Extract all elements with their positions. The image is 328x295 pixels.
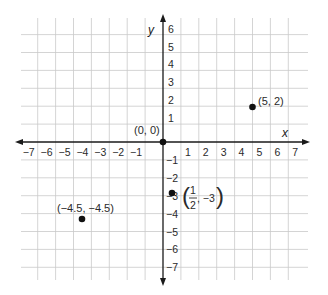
- coordinate-plane: −7−6−5−4−3−2−11234567 654321−1−2−3−4−5−6…: [0, 0, 328, 295]
- point-5-2-label: (5, 2): [258, 95, 284, 107]
- x-tick-label: −5: [59, 146, 71, 158]
- x-tick-label: −3: [94, 146, 106, 158]
- x-tick-label: −6: [41, 146, 53, 158]
- x-tick-label: 1: [185, 146, 191, 158]
- point-neg4.5-neg4.5: [79, 216, 86, 223]
- y-tick-label: −2: [166, 172, 178, 184]
- y-tick-label: 1: [168, 112, 174, 124]
- fraction-denominator: 2: [190, 199, 196, 211]
- x-axis-right-arrow-icon: [302, 139, 310, 145]
- x-tick-label: −7: [23, 146, 35, 158]
- y-tick-label: −5: [166, 226, 178, 238]
- y-tick-label: 2: [168, 94, 174, 106]
- point-origin: [160, 139, 167, 146]
- y-tick-labels: 654321−1−2−3−4−5−6−7: [166, 23, 178, 274]
- paren-close: ): [216, 182, 224, 209]
- y-tick-label: −4: [166, 208, 178, 220]
- x-tick-label: 6: [274, 146, 280, 158]
- point-half-neg3-label: ( 1 2 , −3 ): [182, 182, 224, 211]
- x-tick-label: 7: [292, 146, 298, 158]
- y-axis-down-arrow-icon: [160, 278, 166, 286]
- y-tick-label: 3: [168, 76, 174, 88]
- x-tick-labels: −7−6−5−4−3−2−11234567: [23, 146, 299, 158]
- x-tick-label: 5: [257, 146, 263, 158]
- point-neg4.5-neg4.5-label: (−4.5, −4.5): [57, 202, 114, 214]
- x-tick-label: −2: [112, 146, 124, 158]
- y-tick-label: 6: [168, 23, 174, 35]
- y-tick-label: −1: [166, 154, 178, 166]
- y-tick-label: 4: [168, 58, 174, 70]
- x-axis-label: x: [281, 126, 289, 140]
- x-axis-left-arrow-icon: [15, 139, 23, 145]
- x-tick-label: −4: [76, 146, 88, 158]
- x-tick-label: 2: [203, 146, 209, 158]
- point-half-neg3: [169, 190, 176, 197]
- point-5-2: [249, 104, 256, 111]
- y-axis-up-arrow-icon: [160, 14, 166, 22]
- x-tick-label: 3: [221, 146, 227, 158]
- fraction-numerator: 1: [190, 184, 196, 196]
- y-coordinate-text: , −3: [197, 192, 215, 204]
- x-tick-label: 4: [239, 146, 245, 158]
- y-tick-label: −6: [166, 243, 178, 255]
- y-tick-label: −7: [166, 261, 178, 273]
- y-tick-label: 5: [168, 41, 174, 53]
- paren-open: (: [182, 182, 190, 209]
- y-axis-label: y: [147, 23, 155, 37]
- point-origin-label: (0, 0): [134, 124, 160, 136]
- x-tick-label: −1: [130, 146, 142, 158]
